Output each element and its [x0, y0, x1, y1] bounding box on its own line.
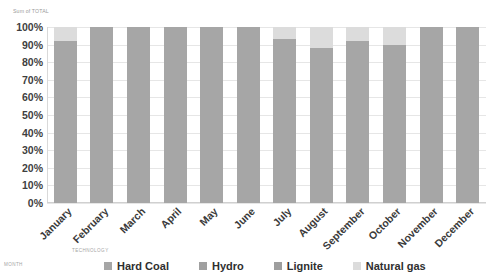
legend-item[interactable]: Hard Coal	[104, 260, 169, 272]
bar-segment[interactable]	[456, 27, 479, 203]
bar-segment[interactable]	[420, 27, 443, 203]
y-axis-tick-label: 40%	[3, 127, 43, 139]
bar-stack[interactable]	[200, 27, 223, 203]
x-axis-tick-label-text: June	[231, 205, 257, 231]
bar-stack[interactable]	[127, 27, 150, 203]
bar-segment[interactable]	[54, 27, 77, 41]
bar-segment[interactable]	[273, 39, 296, 203]
bar-segment[interactable]	[164, 27, 187, 203]
legend-item[interactable]: Hydro	[199, 260, 244, 272]
bar-stack[interactable]	[273, 27, 296, 203]
bar-stack[interactable]	[310, 27, 333, 203]
x-axis-tick-label: March	[120, 203, 157, 255]
x-axis-tick-label: April	[157, 203, 194, 255]
x-axis-title: TECHNOLOGY	[72, 248, 109, 253]
legend-swatch-icon	[353, 262, 361, 270]
stacked-bar-chart: Sum of TOTAL 100%90%80%70%60%50%40%30%20…	[0, 0, 489, 277]
y-axis-tick-label: 50%	[3, 109, 43, 121]
bar-stack[interactable]	[420, 27, 443, 203]
y-axis-title: MONTH	[4, 262, 23, 267]
bar-segment[interactable]	[90, 27, 113, 203]
chart-title: Sum of TOTAL	[13, 8, 49, 14]
legend-item[interactable]: Lignite	[274, 260, 323, 272]
y-axis-tick-label: 10%	[3, 179, 43, 191]
bar-group[interactable]	[340, 27, 377, 203]
bar-segment[interactable]	[383, 45, 406, 203]
bar-segment[interactable]	[346, 41, 369, 203]
legend-item-label: Hydro	[212, 260, 244, 272]
bar-group[interactable]	[376, 27, 413, 203]
bars-layer	[47, 27, 486, 203]
x-axis-tick-label: December	[449, 203, 486, 255]
bar-segment[interactable]	[310, 48, 333, 203]
x-axis-tick-label-text: April	[158, 205, 183, 230]
x-axis-tick-label: May	[193, 203, 230, 255]
bar-group[interactable]	[303, 27, 340, 203]
bar-group[interactable]	[120, 27, 157, 203]
legend-swatch-icon	[274, 262, 282, 270]
bar-segment[interactable]	[310, 27, 333, 48]
bar-stack[interactable]	[90, 27, 113, 203]
bar-segment[interactable]	[54, 41, 77, 203]
legend-swatch-icon	[199, 262, 207, 270]
bar-segment[interactable]	[383, 27, 406, 45]
legend-item-label: Lignite	[287, 260, 323, 272]
legend-item[interactable]: Natural gas	[353, 260, 426, 272]
x-axis-tick-label-text: March	[117, 205, 147, 235]
x-axis-tick-labels: JanuaryFebruaryMarchAprilMayJuneJulyAugu…	[47, 203, 486, 255]
y-axis-tick-label: 100%	[3, 21, 43, 33]
bar-segment[interactable]	[237, 27, 260, 203]
y-axis-tick-label: 80%	[3, 56, 43, 68]
bar-stack[interactable]	[237, 27, 260, 203]
bar-stack[interactable]	[456, 27, 479, 203]
x-axis-tick-label-text: January	[37, 205, 74, 242]
y-axis-tick-label: 70%	[3, 74, 43, 86]
bar-stack[interactable]	[164, 27, 187, 203]
bar-stack[interactable]	[346, 27, 369, 203]
bar-stack[interactable]	[54, 27, 77, 203]
chart-legend: Hard CoalHydroLigniteNatural gas	[104, 258, 456, 274]
bar-group[interactable]	[449, 27, 486, 203]
x-axis-tick-label: June	[230, 203, 267, 255]
y-axis-tick-label: 0%	[3, 197, 43, 209]
y-axis-tick-label: 30%	[3, 144, 43, 156]
legend-swatch-icon	[104, 262, 112, 270]
y-axis-tick-label: 90%	[3, 39, 43, 51]
legend-item-label: Hard Coal	[117, 260, 169, 272]
bar-group[interactable]	[413, 27, 450, 203]
x-axis-tick-label-text: July	[270, 205, 293, 228]
y-axis-tick-label: 60%	[3, 91, 43, 103]
bar-group[interactable]	[230, 27, 267, 203]
bar-group[interactable]	[84, 27, 121, 203]
y-axis-tick-labels: 100%90%80%70%60%50%40%30%20%10%0%	[0, 27, 43, 203]
bar-group[interactable]	[47, 27, 84, 203]
bar-group[interactable]	[266, 27, 303, 203]
bar-segment[interactable]	[346, 27, 369, 41]
bar-group[interactable]	[157, 27, 194, 203]
bar-segment[interactable]	[200, 27, 223, 203]
plot-area	[47, 27, 486, 203]
y-axis-tick-label: 20%	[3, 162, 43, 174]
bar-stack[interactable]	[383, 27, 406, 203]
x-axis-tick-label-text: May	[197, 205, 220, 228]
bar-segment[interactable]	[273, 27, 296, 39]
legend-item-label: Natural gas	[366, 260, 426, 272]
bar-segment[interactable]	[127, 27, 150, 203]
bar-group[interactable]	[193, 27, 230, 203]
